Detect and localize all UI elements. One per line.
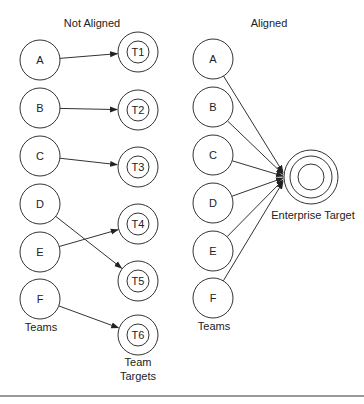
aligned-title: Aligned [251, 17, 288, 29]
aligned-team-node-c: C [193, 135, 233, 175]
enterprise-ring-3 [298, 164, 324, 190]
team-node-c: C [20, 136, 60, 176]
edge-f-t6 [59, 306, 119, 328]
node-label: T4 [132, 218, 145, 230]
team-targets-label-line2: Targets [120, 370, 157, 382]
enterprise-target-node [284, 150, 338, 204]
node-label: A [36, 54, 44, 66]
edge-e-t4 [59, 230, 118, 247]
node-label: E [209, 245, 216, 257]
team-target-t5: T5 [118, 261, 158, 301]
team-target-t2: T2 [118, 90, 158, 130]
aligned-team-node-f: F [193, 278, 233, 318]
node-label: A [209, 53, 217, 65]
not-aligned-title: Not Aligned [64, 17, 120, 29]
node-label: T3 [132, 161, 145, 173]
node-label: T2 [132, 104, 145, 116]
team-node-b: B [20, 88, 60, 128]
team-target-nodes: T1T2T3T4T5T6 [118, 32, 158, 355]
node-label: C [36, 150, 44, 162]
team-node-a: A [20, 40, 60, 80]
team-node-f: F [20, 279, 60, 319]
enterprise-target-label: Enterprise Target [271, 209, 355, 221]
alignment-diagram: Not Aligned Aligned ABCDEF T1T2T3T4T5T6 … [0, 0, 364, 404]
team-target-t6: T6 [118, 315, 158, 355]
node-label: F [210, 292, 217, 304]
edge-b-t2 [60, 108, 117, 109]
node-label: B [36, 102, 43, 114]
edge-c-t3 [60, 158, 117, 164]
team-node-e: E [20, 232, 60, 272]
team-targets-label-line1: Team [125, 356, 152, 368]
node-label: T5 [132, 275, 145, 287]
node-label: D [209, 197, 217, 209]
team-target-t4: T4 [118, 204, 158, 244]
edge-b-enterprise [227, 121, 283, 174]
left-edges [56, 54, 122, 328]
edge-d-t5 [56, 216, 122, 268]
edge-c-enterprise [232, 161, 283, 176]
node-label: F [37, 293, 44, 305]
aligned-team-node-b: B [193, 87, 233, 127]
node-label: T6 [132, 329, 145, 341]
left-teams-label: Teams [25, 321, 58, 333]
edge-a-t1 [60, 54, 117, 59]
team-target-t1: T1 [118, 32, 158, 72]
node-label: C [209, 149, 217, 161]
team-node-d: D [20, 184, 60, 224]
node-label: B [209, 101, 216, 113]
aligned-team-node-a: A [193, 39, 233, 79]
node-label: D [36, 198, 44, 210]
aligned-team-node-d: D [193, 183, 233, 223]
node-label: T1 [132, 46, 145, 58]
left-team-nodes: ABCDEF [20, 40, 60, 319]
aligned-team-node-e: E [193, 231, 233, 271]
team-target-t3: T3 [118, 147, 158, 187]
node-label: E [36, 246, 43, 258]
right-teams-label: Teams [198, 320, 231, 332]
